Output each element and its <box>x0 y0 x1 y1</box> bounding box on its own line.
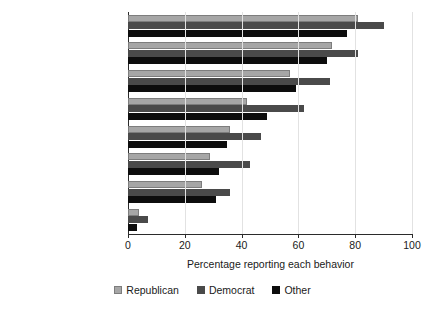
x-tick-label: 80 <box>335 239 375 251</box>
bar-republican <box>128 126 230 133</box>
bar-other <box>128 141 227 148</box>
bar-other <box>128 196 216 203</box>
gridline <box>412 12 413 234</box>
bar-other <box>128 224 137 231</box>
plot-area: Washed hands moreAvoided gatheringsAvoid… <box>128 12 412 234</box>
x-tick-label: 40 <box>222 239 262 251</box>
bar-republican <box>128 181 202 188</box>
x-tick <box>128 234 129 238</box>
bar-democrat <box>128 22 384 29</box>
chart-category-group: Avoided gatherings <box>128 40 412 68</box>
legend-swatch-democrat-icon <box>197 286 205 294</box>
bar-chart: Washed hands moreAvoided gatheringsAvoid… <box>0 0 425 309</box>
bar-republican <box>128 70 290 77</box>
legend-swatch-republican-icon <box>114 286 122 294</box>
bar-republican <box>128 42 332 49</box>
bar-republican <box>128 98 247 105</box>
gridline <box>185 12 186 234</box>
x-tick <box>355 234 356 238</box>
gridline <box>242 12 243 234</box>
chart-category-group: Self-quarantined <box>128 151 412 179</box>
chart-category-group: Sought info on COVID19 <box>128 95 412 123</box>
bar-republican <box>128 209 139 216</box>
bar-democrat <box>128 216 148 223</box>
legend-item-other[interactable]: Other <box>272 284 310 296</box>
bar-other <box>128 85 296 92</box>
x-tick <box>185 234 186 238</box>
chart-category-group: Changed travel plans <box>128 179 412 207</box>
x-axis-line <box>128 234 413 235</box>
bar-other <box>128 168 219 175</box>
bar-democrat <box>128 189 230 196</box>
chart-category-group: Bought sanitizer <box>128 123 412 151</box>
gridline <box>355 12 356 234</box>
x-tick <box>412 234 413 238</box>
gridline <box>298 12 299 234</box>
x-tick <box>298 234 299 238</box>
x-tick <box>242 234 243 238</box>
legend-item-republican[interactable]: Republican <box>114 284 179 296</box>
bar-other <box>128 113 267 120</box>
chart-category-group: Visited the doctor <box>128 206 412 234</box>
x-tick-label: 20 <box>165 239 205 251</box>
x-tick-label: 60 <box>278 239 318 251</box>
bar-democrat <box>128 161 250 168</box>
legend-label: Democrat <box>209 284 255 296</box>
bar-republican <box>128 153 210 160</box>
x-axis-title: Percentage reporting each behavior <box>128 258 413 270</box>
chart-category-group: Washed hands more <box>128 12 412 40</box>
x-tick-label: 100 <box>392 239 425 251</box>
x-tick-label: 0 <box>108 239 148 251</box>
bar-democrat <box>128 105 304 112</box>
bar-democrat <box>128 50 358 57</box>
chart-legend: RepublicanDemocratOther <box>0 284 425 296</box>
chart-category-group: Avoided contact w/ others <box>128 68 412 96</box>
legend-item-democrat[interactable]: Democrat <box>197 284 255 296</box>
legend-label: Republican <box>126 284 179 296</box>
bar-republican <box>128 15 358 22</box>
bar-other <box>128 30 347 37</box>
legend-label: Other <box>284 284 310 296</box>
legend-swatch-other-icon <box>272 286 280 294</box>
bar-other <box>128 57 327 64</box>
